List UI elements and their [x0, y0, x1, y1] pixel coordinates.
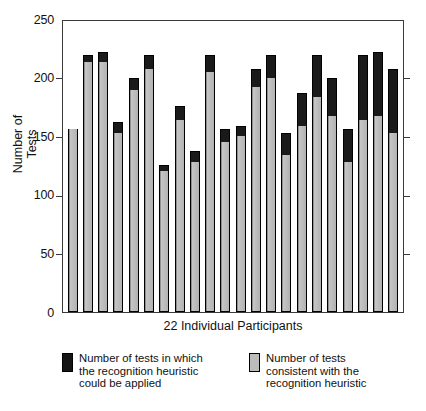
x-axis-title: 22 Individual Participants [62, 319, 404, 333]
bar-column [358, 55, 368, 312]
bar-column [98, 52, 108, 312]
ytick-mark-right-50 [403, 254, 410, 255]
legend-label-line1: Number of tests [266, 352, 366, 365]
bar-segment-could-be-applied [236, 126, 246, 136]
bar-segment-could-be-applied [113, 122, 123, 132]
bar-segment-consistent [281, 155, 291, 312]
ytick-mark-right-200 [403, 78, 410, 79]
bar-segment-consistent [312, 97, 322, 312]
ytick-mark-right-100 [403, 196, 410, 197]
legend-label-consistent-with: Number of tests consistent with the reco… [266, 352, 366, 390]
bar-column [281, 133, 291, 312]
bar-segment-could-be-applied [297, 93, 307, 126]
bar-segment-could-be-applied [129, 78, 139, 90]
y-axis-title: Number of Tests [11, 101, 39, 187]
bar-chart-figure: 250 200 150 100 50 0 Number of Tests 22 … [0, 0, 426, 411]
bar-segment-could-be-applied [190, 151, 200, 161]
bar-column [205, 55, 215, 312]
chart-legend: Number of tests in which the recognition… [62, 352, 412, 390]
bar-column [113, 122, 123, 312]
legend-label-could-be-applied: Number of tests in which the recognition… [79, 352, 203, 390]
bar-segment-consistent [297, 126, 307, 312]
bar-column [343, 129, 353, 312]
bar-segment-could-be-applied [373, 52, 383, 116]
bar-segment-consistent [113, 133, 123, 312]
legend-item-consistent-with: Number of tests consistent with the reco… [249, 352, 412, 390]
bar-segment-consistent [144, 69, 154, 312]
bar-segment-consistent [236, 136, 246, 312]
legend-label-line2: consistent with the [266, 365, 366, 378]
bar-segment-consistent [175, 120, 185, 312]
bar-segment-consistent [251, 87, 261, 312]
ytick-label-200: 200 [20, 71, 54, 85]
bar-column [327, 78, 337, 312]
bar-segment-consistent [358, 120, 368, 312]
bar-segment-could-be-applied [205, 55, 215, 72]
bar-segment-consistent [266, 78, 276, 312]
bar-segment-consistent [388, 133, 398, 312]
bar-segment-could-be-applied [358, 55, 368, 120]
bar-column [220, 129, 230, 312]
bar-segment-consistent [220, 142, 230, 312]
bar-segment-consistent [98, 62, 108, 312]
bar-segment-could-be-applied [83, 55, 93, 62]
ytick-mark-right-150 [403, 137, 410, 138]
bar-column [159, 165, 169, 312]
bar-column [373, 52, 383, 312]
bar-column [312, 55, 322, 312]
ytick-label-0: 0 [20, 306, 54, 320]
bar-segment-consistent [373, 116, 383, 312]
bar-segment-could-be-applied [266, 55, 276, 78]
bar-series-container [63, 21, 403, 312]
legend-swatch-black-icon [62, 353, 73, 372]
bar-segment-consistent [205, 72, 215, 312]
bar-column [251, 69, 261, 312]
y-axis-title-line2: Tests [25, 129, 39, 158]
bar-segment-consistent [190, 162, 200, 312]
y-axis-title-line1: Number of [11, 115, 25, 173]
bar-segment-could-be-applied [144, 55, 154, 69]
legend-label-line3: could be applied [79, 377, 203, 390]
bar-segment-could-be-applied [281, 133, 291, 155]
bar-segment-could-be-applied [98, 52, 108, 61]
bar-column [144, 55, 154, 312]
legend-label-line3: recognition heuristic [266, 377, 366, 390]
bar-column [190, 151, 200, 312]
bar-column [83, 55, 93, 312]
legend-label-line2: the recognition heuristic [79, 365, 203, 378]
bar-column [266, 55, 276, 312]
legend-swatch-gray-icon [249, 353, 260, 372]
bar-column [129, 78, 139, 312]
ytick-label-100: 100 [20, 188, 54, 202]
ytick-label-250: 250 [20, 13, 54, 27]
bar-column [388, 69, 398, 312]
plot-area [62, 20, 404, 313]
bar-segment-consistent [83, 62, 93, 312]
bar-segment-could-be-applied [343, 129, 353, 162]
bar-segment-consistent [327, 116, 337, 312]
bar-column [175, 106, 185, 312]
bar-segment-could-be-applied [327, 78, 337, 116]
bar-segment-could-be-applied [251, 69, 261, 88]
bar-segment-could-be-applied [175, 106, 185, 120]
legend-item-could-be-applied: Number of tests in which the recognition… [62, 352, 225, 390]
bar-segment-consistent [68, 129, 78, 312]
bar-segment-consistent [343, 162, 353, 312]
bar-segment-could-be-applied [220, 129, 230, 142]
bar-column [236, 126, 246, 312]
bar-column [68, 129, 78, 312]
bar-segment-consistent [159, 171, 169, 312]
ytick-label-50: 50 [20, 247, 54, 261]
bar-segment-consistent [129, 90, 139, 312]
bar-column [297, 93, 307, 312]
legend-label-line1: Number of tests in which [79, 352, 203, 365]
bar-segment-could-be-applied [388, 69, 398, 133]
bar-segment-could-be-applied [312, 55, 322, 97]
